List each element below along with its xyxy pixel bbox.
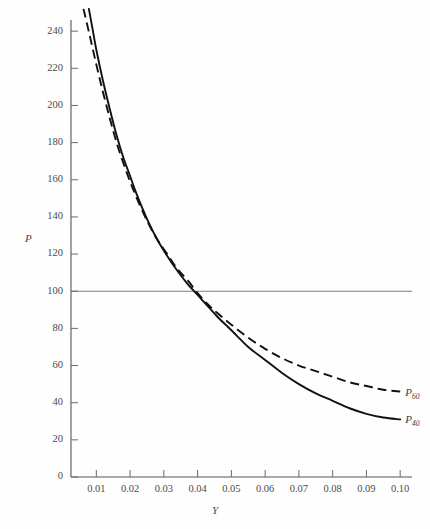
y-axis-ticks: 020406080100120140160180200220240 [47,25,78,482]
y-tick-label: 180 [47,136,63,147]
y-axis-title: P [24,232,32,244]
x-tick-label: 0.04 [188,483,207,494]
y-tick-label: 100 [47,285,63,296]
data-series-group [83,9,400,420]
x-tick-label: 0.03 [155,483,173,494]
x-axis-title: Y [212,504,220,516]
x-tick-label: 0.07 [290,483,308,494]
y-tick-label: 200 [47,99,63,110]
x-tick-label: 0.09 [357,483,375,494]
x-tick-label: 0.08 [323,483,341,494]
figure-container: 020406080100120140160180200220240 0.010.… [0,0,430,529]
x-axis-ticks: 0.010.020.030.040.050.060.070.080.090.10 [87,470,409,494]
x-tick-label: 0.02 [121,483,139,494]
x-tick-label: 0.05 [222,483,240,494]
x-tick-label: 0.10 [391,483,409,494]
series-label-group: P60P40 [404,386,419,429]
curve-p-60 [83,9,400,392]
y-tick-label: 40 [53,396,64,407]
y-tick-label: 160 [47,173,63,184]
x-tick-label: 0.06 [256,483,274,494]
y-tick-label: 20 [53,433,64,444]
series-label-p-40: P40 [404,413,419,428]
y-tick-label: 220 [47,62,63,73]
y-tick-label: 80 [53,322,64,333]
chart-canvas: 020406080100120140160180200220240 0.010.… [0,0,430,529]
y-tick-label: 140 [47,210,63,221]
y-tick-label: 60 [53,359,64,370]
y-tick-label: 0 [58,470,63,481]
x-tick-label: 0.01 [87,483,105,494]
y-tick-label: 120 [47,247,63,258]
y-tick-label: 240 [47,25,63,36]
curve-p-40 [89,9,400,420]
series-label-p-60: P60 [404,386,419,401]
